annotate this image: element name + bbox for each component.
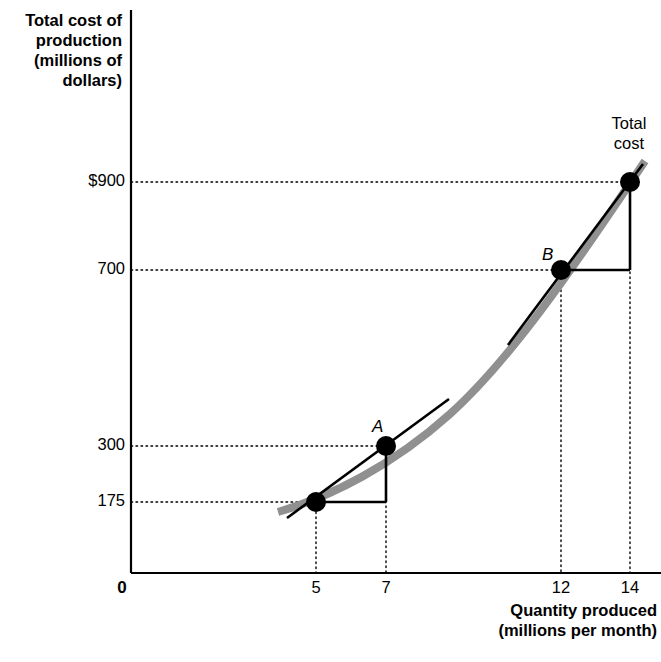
point-5-175-marker[interactable] (306, 492, 326, 512)
total-cost-curve (278, 161, 645, 512)
x-axis-title: Quantity produced (millions per month) (361, 600, 657, 640)
y-tick-label-700: 700 (45, 259, 125, 278)
x-tick-label-7: 7 (366, 578, 406, 597)
chart-canvas (0, 0, 661, 662)
data-point-markers (306, 172, 640, 512)
y-tick-label-300: 300 (45, 435, 125, 454)
x-tick-label-14: 14 (610, 578, 650, 597)
point-b-marker[interactable] (551, 260, 571, 280)
curve-series-label: Total cost (600, 113, 658, 153)
point-14-900-marker[interactable] (620, 172, 640, 192)
y-tick-label-900: $900 (45, 171, 125, 190)
total-cost-chart: Total cost of production (millions of do… (0, 0, 661, 662)
point-a-marker[interactable] (376, 436, 396, 456)
y-axis-title: Total cost of production (millions of do… (0, 10, 122, 90)
x-tick-label-5: 5 (296, 578, 336, 597)
y-tick-label-175: 175 (45, 491, 125, 510)
vertical-droplines (316, 182, 630, 573)
point-label-b: B (542, 245, 553, 265)
x-tick-label-12: 12 (541, 578, 581, 597)
point-label-a: A (372, 417, 383, 437)
secant-line-b (508, 164, 643, 345)
origin-label: 0 (102, 578, 142, 598)
